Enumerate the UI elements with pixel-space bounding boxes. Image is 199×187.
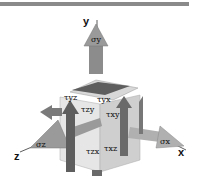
sigma-z-label: σz — [36, 140, 46, 149]
left-shear-arrow-shaft — [52, 108, 62, 116]
y-axis-label: y — [83, 15, 90, 27]
sigma-y-label: σy — [91, 35, 101, 44]
x-axis-label: x — [178, 146, 185, 158]
right-edge-arrow — [139, 96, 143, 134]
tau-zy-label: τzy — [81, 105, 95, 114]
sigma-y-arrow — [84, 24, 108, 74]
left-shear-arrow — [40, 105, 52, 120]
tau-yz-top-label: τyz — [64, 93, 77, 102]
tau-yx-top-label: τyx — [97, 95, 111, 104]
bottom-arrow-stub — [92, 170, 102, 176]
sigma-x-label: σx — [160, 137, 170, 146]
tau-xz-label: τxz — [104, 144, 117, 153]
tau-zx-label: τzx — [86, 147, 100, 156]
tau-xy-label: τxy — [106, 110, 120, 119]
z-axis-label: z — [14, 150, 20, 162]
stress-cube-diagram: y σy σz z σx x τyz τyx τzy τxy τzx τxz — [0, 0, 199, 187]
